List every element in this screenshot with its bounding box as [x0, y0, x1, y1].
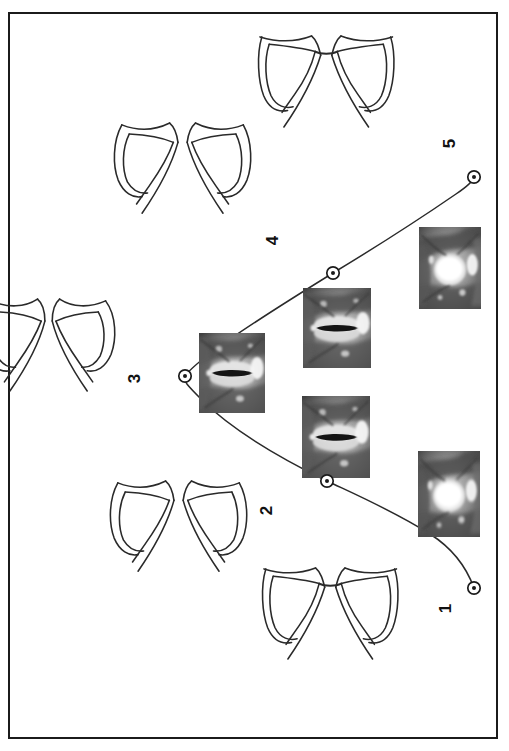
stage-drawing-3: [0, 299, 115, 391]
stage-label-3: 3: [126, 374, 143, 383]
stage-drawing-4: [114, 123, 250, 213]
stage-marker-4[interactable]: [327, 267, 339, 279]
stage-label-4: 4: [264, 236, 281, 245]
stage-marker-5[interactable]: [468, 171, 480, 183]
stage-label-5: 5: [441, 139, 458, 148]
endoscopy-photo-stage-2: [298, 396, 374, 483]
figure-canvas: [0, 0, 509, 751]
stage-drawing-5: [259, 36, 394, 127]
stage-drawing-1: [263, 568, 398, 659]
endoscopy-photo-stage-5: [415, 224, 484, 314]
endoscopy-photo-stage-4: [299, 288, 375, 373]
endoscopy-photo-stage-3: [195, 333, 269, 418]
stage-drawing-2: [110, 481, 246, 571]
stage-marker-3[interactable]: [179, 370, 191, 382]
stage-marker-1[interactable]: [468, 582, 480, 594]
endoscopy-photo-stage-1: [414, 448, 483, 543]
figure-root: 1 2 3 4 5: [0, 0, 509, 751]
stage-label-2: 2: [258, 506, 275, 515]
stage-label-1: 1: [437, 604, 454, 613]
stage-marker-2[interactable]: [321, 475, 333, 487]
